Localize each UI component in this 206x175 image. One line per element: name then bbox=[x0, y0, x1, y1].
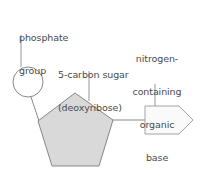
base-label-line-1: nitrogen- bbox=[132, 53, 182, 64]
sugar-label-line-2: (deoxyribose) bbox=[58, 102, 129, 113]
base-label: nitrogen- containing organic base bbox=[132, 31, 182, 174]
base-label-line-3: organic bbox=[132, 119, 182, 130]
sugar-label: 5-carbon sugar (deoxyribose) bbox=[58, 47, 129, 124]
phosphate-label-line-1: phosphate bbox=[19, 32, 68, 43]
sugar-label-line-1: 5-carbon sugar bbox=[58, 69, 129, 80]
base-label-line-4: base bbox=[132, 152, 182, 163]
base-label-line-2: containing bbox=[132, 86, 182, 97]
phosphate-sugar-bond bbox=[31, 97, 39, 121]
